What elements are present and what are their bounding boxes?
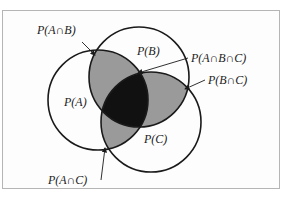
- label-ab: P(A∩B): [36, 23, 76, 37]
- arrow-ac: [101, 148, 105, 180]
- venn-diagram: P(A) P(B) P(C) P(A∩B) P(A∩B∩C) P(B∩C) P(…: [0, 0, 292, 198]
- label-bc: P(B∩C): [207, 73, 247, 87]
- label-a: P(A): [63, 95, 87, 109]
- label-ac: P(A∩C): [47, 173, 87, 187]
- label-abc: P(A∩B∩C): [190, 51, 246, 65]
- arrow-abc: [138, 58, 188, 73]
- arrow-ab: [82, 42, 95, 55]
- label-b: P(B): [136, 44, 160, 58]
- label-c: P(C): [143, 132, 167, 146]
